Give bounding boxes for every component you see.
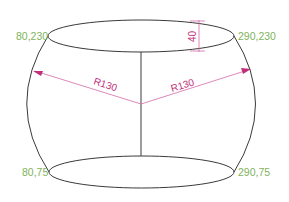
right-arc	[234, 36, 256, 172]
radius-right-arrow-icon	[241, 68, 251, 74]
radius-left-label: R130	[92, 75, 119, 93]
radius-left-line	[35, 71, 141, 104]
coord-bottom-right: 290,75	[238, 166, 270, 178]
left-arc	[27, 36, 49, 172]
coord-top-left: 80,230	[16, 30, 48, 42]
barrel-drawing: 40 R130 R130 80,230 290,230 80,75 290,75	[0, 0, 289, 202]
coord-bottom-left: 80,75	[22, 166, 48, 178]
height-dim-label: 40	[187, 30, 198, 42]
coord-top-right: 290,230	[238, 30, 276, 42]
radius-left-arrow-icon	[33, 71, 43, 76]
radius-right-label: R130	[169, 76, 195, 94]
bottom-ellipse	[49, 156, 234, 188]
top-ellipse	[48, 20, 234, 52]
